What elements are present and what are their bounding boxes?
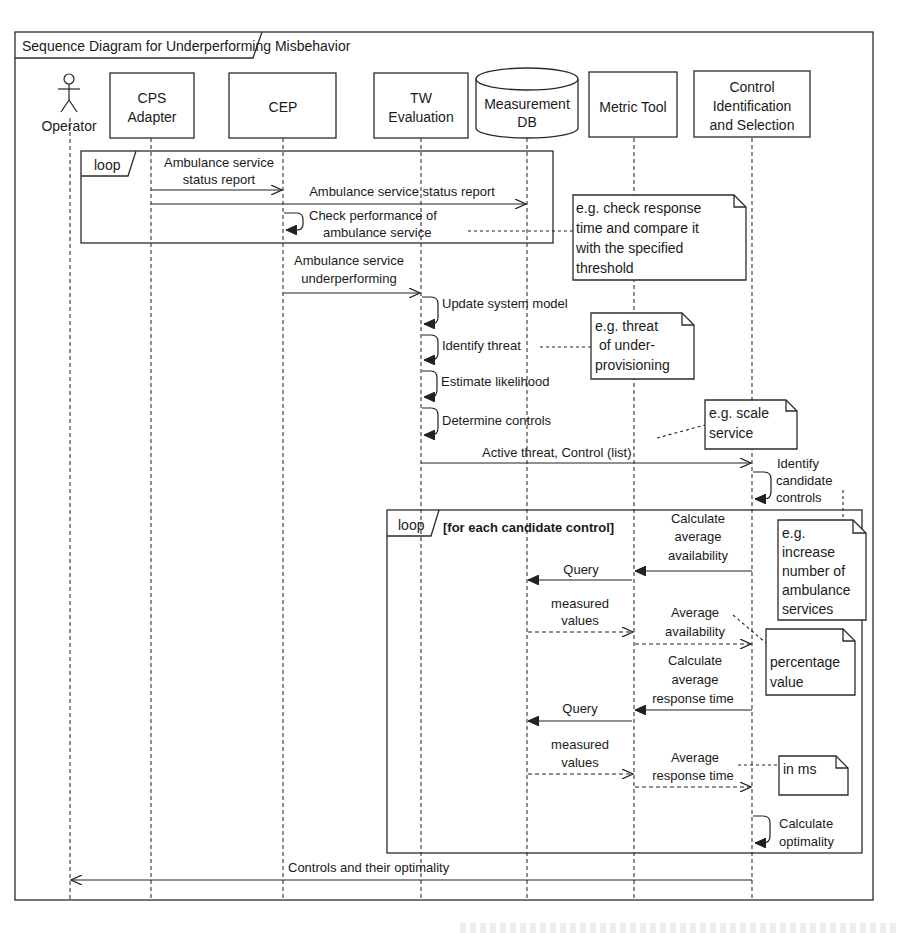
self-message-identify-candidate-controls: Identify candidate controls bbox=[753, 456, 832, 505]
svg-text:CPS: CPS bbox=[138, 90, 167, 106]
svg-text:value: value bbox=[770, 674, 804, 690]
svg-text:Calculate: Calculate bbox=[668, 653, 722, 668]
svg-text:values: values bbox=[561, 755, 599, 770]
svg-text:measured: measured bbox=[551, 737, 609, 752]
return-average-response-time: Average response time bbox=[635, 750, 751, 787]
note-in-ms: in ms bbox=[738, 756, 848, 795]
svg-text:in ms: in ms bbox=[783, 761, 816, 777]
svg-text:e.g.: e.g. bbox=[782, 525, 805, 541]
diagram-title: Sequence Diagram for Underperforming Mis… bbox=[22, 38, 351, 54]
svg-text:average: average bbox=[672, 672, 719, 687]
return-measured-values-response-time: measured values bbox=[528, 737, 633, 774]
svg-text:time and compare it: time and compare it bbox=[576, 220, 699, 236]
message-query-availability: Query bbox=[528, 562, 632, 580]
svg-text:Average: Average bbox=[671, 605, 719, 620]
message-status-report-to-cep: Ambulance service status report bbox=[151, 155, 282, 190]
self-message-calculate-optimality: Calculate optimality bbox=[753, 816, 834, 849]
svg-text:ambulance service: ambulance service bbox=[323, 225, 431, 240]
svg-text:status report: status report bbox=[183, 172, 256, 187]
actor-icon bbox=[58, 74, 80, 112]
svg-text:provisioning: provisioning bbox=[595, 357, 670, 373]
svg-text:Evaluation: Evaluation bbox=[388, 109, 453, 125]
sequence-diagram: Sequence Diagram for Underperforming Mis… bbox=[0, 0, 904, 933]
svg-text:Metric Tool: Metric Tool bbox=[599, 99, 666, 115]
svg-text:controls: controls bbox=[776, 490, 822, 505]
svg-text:e.g. check response: e.g. check response bbox=[576, 200, 702, 216]
svg-text:Adapter: Adapter bbox=[127, 109, 176, 125]
participant-operator: Operator bbox=[41, 74, 97, 134]
self-message-identify-threat: Identify threat bbox=[422, 335, 521, 360]
svg-text:Ambulance service: Ambulance service bbox=[294, 253, 404, 268]
svg-text:number of: number of bbox=[782, 563, 845, 579]
svg-text:Controls and their optimality: Controls and their optimality bbox=[288, 860, 450, 875]
svg-text:optimality: optimality bbox=[779, 834, 834, 849]
svg-text:with the specified: with the specified bbox=[575, 240, 683, 256]
svg-text:availability: availability bbox=[668, 548, 728, 563]
svg-text:and Selection: and Selection bbox=[710, 117, 795, 133]
participant-cep: CEP bbox=[229, 73, 336, 138]
svg-text:Identify threat: Identify threat bbox=[442, 338, 521, 353]
note-percentage-value: percentage value bbox=[733, 615, 855, 695]
svg-text:Check performance of: Check performance of bbox=[309, 208, 437, 223]
participant-control-selection: Control Identification and Selection bbox=[694, 71, 810, 137]
svg-text:response time: response time bbox=[652, 691, 734, 706]
self-message-check-performance: Check performance of ambulance service bbox=[284, 208, 437, 240]
svg-text:services: services bbox=[782, 601, 833, 617]
svg-text:underperforming: underperforming bbox=[301, 271, 396, 286]
message-calculate-average-availability: Calculate average availability bbox=[635, 511, 752, 571]
self-message-determine-controls: Determine controls bbox=[422, 408, 552, 435]
note-threat-underprovisioning: e.g. threat of under- provisioning bbox=[540, 313, 694, 379]
participant-label: Operator bbox=[41, 118, 97, 134]
svg-text:Determine controls: Determine controls bbox=[442, 413, 552, 428]
message-active-threat-control-list: Active threat, Control (list) bbox=[421, 445, 751, 463]
diagram-frame: Sequence Diagram for Underperforming Mis… bbox=[15, 32, 873, 900]
svg-text:Average: Average bbox=[671, 750, 719, 765]
svg-text:measured: measured bbox=[551, 596, 609, 611]
message-status-report-to-db: Ambulance service status report bbox=[151, 184, 526, 204]
svg-text:average: average bbox=[675, 529, 722, 544]
message-query-response-time: Query bbox=[528, 701, 632, 721]
svg-text:Measurement: Measurement bbox=[484, 96, 570, 112]
self-message-estimate-likelihood: Estimate likelihood bbox=[422, 371, 549, 397]
message-controls-and-optimality: Controls and their optimality bbox=[71, 860, 752, 880]
loop-label: loop bbox=[94, 157, 121, 173]
svg-text:e.g. scale: e.g. scale bbox=[709, 405, 769, 421]
return-average-availability: Average availability bbox=[635, 605, 751, 644]
svg-text:Ambulance service: Ambulance service bbox=[164, 155, 274, 170]
message-underperforming: Ambulance service underperforming bbox=[283, 253, 420, 293]
svg-text:DB: DB bbox=[517, 114, 536, 130]
svg-text:Calculate: Calculate bbox=[779, 816, 833, 831]
svg-text:increase: increase bbox=[782, 544, 835, 560]
svg-text:percentage: percentage bbox=[770, 654, 840, 670]
svg-text:Identification: Identification bbox=[713, 98, 792, 114]
return-measured-values-availability: measured values bbox=[528, 596, 633, 632]
svg-text:Query: Query bbox=[563, 562, 599, 577]
note-increase-ambulance-services: e.g. increase number of ambulance servic… bbox=[778, 520, 866, 620]
participant-measurement-db: Measurement DB bbox=[476, 68, 578, 138]
svg-text:Control: Control bbox=[729, 79, 774, 95]
svg-text:Ambulance service status repor: Ambulance service status report bbox=[309, 184, 495, 199]
svg-text:of under-: of under- bbox=[599, 337, 655, 353]
self-message-update-system-model: Update system model bbox=[422, 296, 568, 324]
svg-text:values: values bbox=[561, 613, 599, 628]
svg-text:availability: availability bbox=[665, 624, 725, 639]
svg-text:CEP: CEP bbox=[269, 99, 298, 115]
svg-text:Query: Query bbox=[562, 701, 598, 716]
participant-metric-tool: Metric Tool bbox=[589, 72, 677, 137]
svg-text:response time: response time bbox=[652, 768, 734, 783]
svg-text:threshold: threshold bbox=[576, 260, 634, 276]
svg-text:service: service bbox=[709, 425, 754, 441]
participant-tw-evaluation: TW Evaluation bbox=[374, 73, 468, 138]
loop-label: loop bbox=[398, 517, 425, 533]
svg-text:Calculate: Calculate bbox=[671, 511, 725, 526]
svg-text:candidate: candidate bbox=[776, 473, 832, 488]
note-scale-service: e.g. scale service bbox=[657, 400, 797, 449]
svg-text:Update system model: Update system model bbox=[442, 296, 568, 311]
svg-text:TW: TW bbox=[410, 90, 433, 106]
participant-cps-adapter: CPS Adapter bbox=[110, 73, 194, 138]
message-calculate-average-response-time: Calculate average response time bbox=[635, 653, 752, 710]
svg-text:Active threat, Control (list): Active threat, Control (list) bbox=[482, 445, 632, 460]
svg-text:e.g. threat: e.g. threat bbox=[595, 318, 658, 334]
cropped-caption bbox=[460, 923, 900, 933]
svg-text:ambulance: ambulance bbox=[782, 582, 851, 598]
